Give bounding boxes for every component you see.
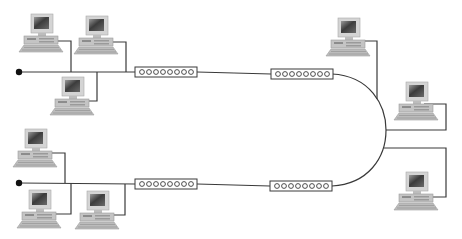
lower-bus-cable [19,183,135,184]
backbone-arc [332,74,386,186]
workstation-icon[interactable] [394,82,438,120]
lower-terminator [16,180,22,186]
repeater-upper-right[interactable] [271,69,333,79]
workstation-icon[interactable] [326,18,370,56]
workstation-icon[interactable] [17,190,61,228]
repeater-lower-left[interactable] [135,179,197,189]
workstation-icon[interactable] [394,172,438,210]
upper-link-cable [197,72,271,74]
lower-link-cable [197,184,270,186]
repeater-lower-right[interactable] [270,181,332,191]
network-diagram [0,0,462,239]
workstation-icon[interactable] [19,14,63,52]
workstation-icon[interactable] [74,16,118,54]
workstation-icon[interactable] [50,77,94,115]
repeater-upper-left[interactable] [135,67,197,77]
drop-cable [50,183,71,214]
upper-terminator [16,69,22,75]
workstation-icon[interactable] [13,129,57,167]
drop-cable [105,42,126,72]
workstation-icon[interactable] [75,191,119,229]
